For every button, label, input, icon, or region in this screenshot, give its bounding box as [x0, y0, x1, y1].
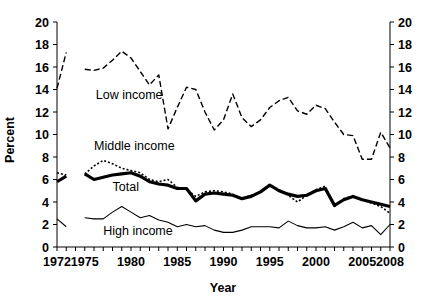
y-tick-label-right: 16 — [398, 61, 412, 75]
y-tick-label-right: 4 — [398, 196, 405, 210]
y-tick-label-right: 6 — [398, 173, 405, 187]
x-axis-title: Year — [210, 281, 237, 295]
y-tick-label-right: 18 — [398, 38, 412, 52]
y-tick-label-right: 2 — [398, 218, 405, 232]
y-tick-label-left: 6 — [42, 173, 49, 187]
annotation-middle-income: Middle income — [94, 139, 175, 153]
y-tick-label-left: 8 — [42, 151, 49, 165]
x-tick-label: 1975 — [71, 255, 99, 269]
y-tick-label-left: 4 — [42, 196, 49, 210]
y-tick-label-right: 0 — [398, 241, 405, 255]
series-line-low-income — [57, 52, 66, 88]
y-axis-title: Percent — [3, 116, 17, 163]
y-tick-label-right: 14 — [398, 83, 412, 97]
annotation-low-income: Low income — [96, 88, 163, 102]
y-tick-label-left: 12 — [35, 106, 49, 120]
line-chart: 02468101214161820 02468101214161820 1972… — [0, 0, 434, 300]
series-line-total — [57, 176, 66, 182]
y-tick-label-right: 12 — [398, 106, 412, 120]
y-axis-left: 02468101214161820 — [35, 16, 57, 255]
y-tick-label-right: 10 — [398, 128, 412, 142]
annotation-high-income: High income — [103, 224, 173, 238]
x-axis: 197219751980198519901995200020052008 — [43, 247, 404, 269]
series-line-middle-income — [57, 173, 66, 175]
x-tick-label: 1995 — [256, 255, 284, 269]
series-line-high-income — [57, 219, 66, 227]
x-tick-label: 1990 — [210, 255, 238, 269]
y-tick-label-left: 0 — [42, 241, 49, 255]
y-tick-label-left: 16 — [35, 61, 49, 75]
y-axis-right: 02468101214161820 — [390, 16, 412, 255]
series-annotations: Low incomeMiddle incomeTotalHigh income — [94, 88, 175, 238]
y-tick-label-left: 18 — [35, 38, 49, 52]
y-tick-label-right: 20 — [398, 16, 412, 30]
y-tick-label-right: 8 — [398, 151, 405, 165]
chart-figure: 02468101214161820 02468101214161820 1972… — [0, 0, 434, 300]
y-tick-label-left: 10 — [35, 128, 49, 142]
x-tick-label: 1980 — [117, 255, 145, 269]
x-tick-label: 2008 — [376, 255, 404, 269]
y-tick-label-left: 2 — [42, 218, 49, 232]
y-tick-label-left: 14 — [35, 83, 49, 97]
x-tick-label: 2000 — [302, 255, 330, 269]
x-tick-label: 2005 — [348, 255, 376, 269]
x-tick-label: 1985 — [163, 255, 191, 269]
y-tick-label-left: 20 — [35, 16, 49, 30]
x-tick-label: 1972 — [43, 255, 71, 269]
annotation-total: Total — [113, 180, 139, 194]
